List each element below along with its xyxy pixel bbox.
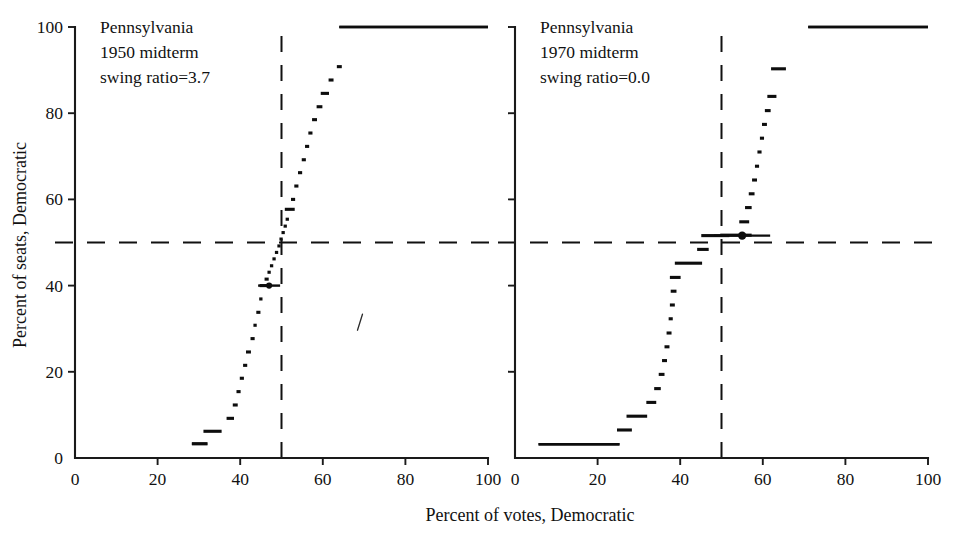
left-observed-election-dot [266, 283, 272, 289]
left-x-tick-label-100: 100 [475, 469, 502, 489]
right-x-tick-label-100: 100 [915, 469, 942, 489]
y-tick-label-100: 100 [37, 17, 64, 37]
left-x-tick-label-20: 20 [149, 469, 167, 489]
right-observed-election-dot [738, 231, 746, 239]
y-tick-label-0: 0 [54, 448, 63, 468]
x-axis-title: Percent of votes, Democratic [426, 505, 635, 525]
y-tick-label-40: 40 [46, 276, 64, 296]
right-annotation-line-3: swing ratio=0.0 [540, 67, 650, 87]
left-x-tick-label-80: 80 [397, 469, 415, 489]
right-annotation-line-2: 1970 midterm [540, 42, 639, 62]
right-x-tick-label-80: 80 [837, 469, 855, 489]
right-x-tick-label-0: 0 [511, 469, 520, 489]
right-x-tick-label-60: 60 [754, 469, 772, 489]
left-x-tick-label-60: 60 [314, 469, 332, 489]
right-annotation-line-1: Pennsylvania [540, 17, 634, 37]
left-annotation-line-3: swing ratio=3.7 [100, 67, 210, 87]
left-x-tick-label-0: 0 [71, 469, 80, 489]
y-axis-title: Percent of seats, Democratic [10, 142, 30, 348]
y-tick-label-60: 60 [46, 189, 64, 209]
right-x-tick-label-20: 20 [589, 469, 607, 489]
y-tick-label-80: 80 [46, 103, 64, 123]
left-annotation-line-1: Pennsylvania [100, 17, 194, 37]
chart-canvas: 020406080100020406080100 Pennsylvania195… [0, 0, 960, 538]
left-annotation-line-2: 1950 midterm [100, 42, 199, 62]
right-x-tick-label-40: 40 [671, 469, 689, 489]
left-x-tick-label-40: 40 [231, 469, 249, 489]
seats-votes-figure: 020406080100020406080100 Pennsylvania195… [0, 0, 960, 538]
y-tick-label-20: 20 [46, 362, 64, 382]
